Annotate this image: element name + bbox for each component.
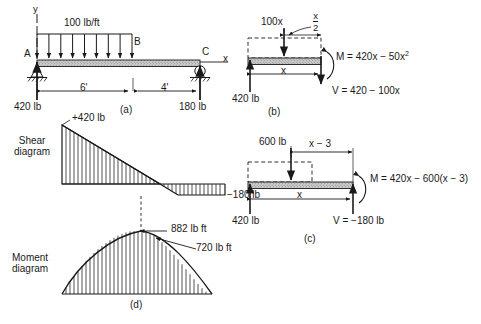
length-label-c: x xyxy=(297,190,302,201)
centroid-leader-b xyxy=(289,27,311,35)
panel-c-diagram xyxy=(248,146,366,214)
beam-member xyxy=(37,60,200,67)
shear-max-label: +420 lb xyxy=(72,113,105,124)
point-label-C: C xyxy=(202,47,209,58)
moment-at-b-label: 720 lb ft xyxy=(196,243,232,254)
moment-equation-b-text: M = 420x − 50x xyxy=(336,51,405,62)
panel-a-diagram xyxy=(27,14,228,100)
shear-diagram-title: Shear diagram xyxy=(14,135,50,157)
moment-equation-b: M = 420x − 50x2 xyxy=(336,50,409,63)
resultant-label-b: 100x xyxy=(261,17,283,28)
beam-analysis-figure: y x 100 lb/ft A B C 420 lb 180 lb 6' 4' … xyxy=(0,0,481,324)
shear-equation-c: V = −180 lb xyxy=(333,216,384,227)
moment-equation-b-exponent: 2 xyxy=(405,50,409,57)
dimension-label-6ft: 6' xyxy=(80,83,87,94)
figure-vector-layer xyxy=(0,0,481,324)
internal-moment-arrow-b xyxy=(327,52,334,79)
shear-diagram xyxy=(62,120,225,231)
internal-moment-arrow-c xyxy=(359,176,366,203)
moment-diagram xyxy=(62,231,212,294)
resultant-label-c: 600 lb xyxy=(259,137,286,148)
length-label-b: x xyxy=(281,66,286,77)
y-axis-label: y xyxy=(33,4,38,14)
shear-equation-b: V = 420 − 100x xyxy=(332,86,400,97)
load-block-dashed-c xyxy=(248,162,312,182)
panel-label-a: (a) xyxy=(120,105,132,116)
panel-label-d: (d) xyxy=(130,300,142,311)
moment-curve xyxy=(62,231,212,294)
arm-label-c: x − 3 xyxy=(309,139,331,150)
shear-negative-hatching xyxy=(164,184,220,195)
moment-equation-c: M = 420x − 600(x − 3) xyxy=(370,174,468,185)
distributed-load-label: 100 lb/ft xyxy=(64,18,100,29)
panel-label-c: (c) xyxy=(304,234,316,245)
moment-hatching xyxy=(66,231,206,294)
shear-min-label: −180 lb xyxy=(227,190,260,201)
distributed-load-arrows xyxy=(37,34,132,58)
dimension-line-xminus3-c xyxy=(291,146,353,183)
moment-diagram-title: Moment diagram xyxy=(12,252,48,274)
point-label-A: A xyxy=(24,49,31,60)
reaction-label-C: 180 lb xyxy=(179,102,206,113)
beam-segment-b xyxy=(248,58,321,65)
centroid-denominator: 2 xyxy=(313,23,318,33)
reaction-label-b: 420 lb xyxy=(232,94,259,105)
moment-diagram-title-line1: Moment xyxy=(12,252,48,263)
x-axis-label: x xyxy=(223,54,228,65)
panel-label-b: (b) xyxy=(268,107,280,118)
moment-peak-label: 882 lb ft xyxy=(171,224,207,235)
beam-segment-c xyxy=(248,182,353,189)
shear-diagram-title-line2: diagram xyxy=(14,146,50,157)
panel-b-diagram xyxy=(248,27,334,92)
shear-max-leader xyxy=(62,120,70,125)
dimension-label-4ft: 4' xyxy=(161,83,168,94)
point-label-B: B xyxy=(134,37,141,48)
centroid-numerator: x xyxy=(313,11,318,21)
moment-diagram-title-line2: diagram xyxy=(12,263,48,274)
reaction-label-A: 420 lb xyxy=(14,102,41,113)
centroid-fraction-b: x 2 xyxy=(313,11,318,32)
shear-diagram-title-line1: Shear xyxy=(19,135,46,146)
reaction-label-c: 420 lb xyxy=(232,216,259,227)
